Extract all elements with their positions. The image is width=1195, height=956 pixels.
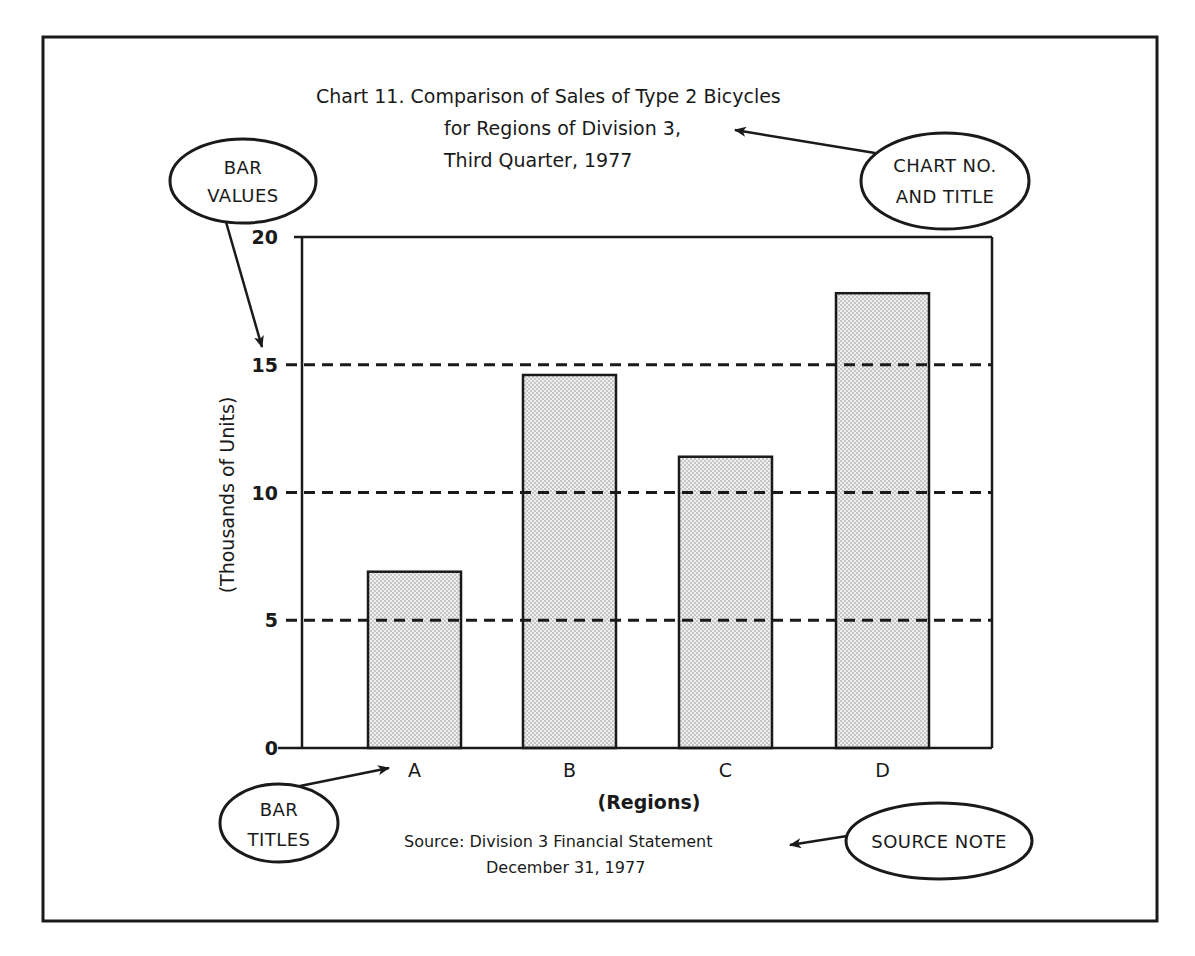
callout-bar-values: BAR VALUES [170,139,316,347]
arrow-icon [735,130,875,153]
callout-text: CHART NO. [893,155,996,176]
y-tick-labels: 05101520 [252,226,278,759]
chart-title-line-2: for Regions of Division 3, [444,117,681,139]
bar-a [368,572,461,748]
bar-c [679,457,772,748]
callout-text: BAR [224,157,263,178]
callout-text: AND TITLE [896,186,995,207]
source-note-text: Source: Division 3 Financial Statement D… [404,832,713,877]
y-tick-label: 0 [265,737,278,759]
callout-text: BAR [260,799,299,820]
bar-series [368,293,929,748]
bar-d [836,293,929,748]
bar-b [523,375,616,748]
y-axis-label: (Thousands of Units) [216,397,238,594]
callout-source-note: SOURCE NOTE [790,803,1032,879]
source-line-1: Source: Division 3 Financial Statement [404,832,713,851]
y-tick-label: 20 [252,226,278,248]
chart-title: Chart 11. Comparison of Sales of Type 2 … [316,85,781,171]
arrow-icon [790,836,847,845]
y-tick-label: 5 [265,609,278,631]
chart-figure: Chart 11. Comparison of Sales of Type 2 … [0,0,1195,956]
callout-ellipse [220,784,338,862]
callout-text: VALUES [207,185,279,206]
category-labels: ABCD [408,759,890,781]
x-axis-label: (Regions) [598,791,701,813]
source-line-2: December 31, 1977 [486,858,645,877]
callout-ellipse [861,133,1029,229]
callout-text: SOURCE NOTE [871,831,1007,852]
arrow-icon [300,768,389,786]
category-label: B [563,759,576,781]
category-label: D [875,759,890,781]
y-tick-label: 10 [252,482,278,504]
callout-bar-titles: BAR TITLES [220,768,389,862]
callout-text: TITLES [246,829,310,850]
callout-ellipse [170,139,316,223]
category-label: A [408,759,421,781]
callout-chart-no-title: CHART NO. AND TITLE [735,130,1029,229]
y-tick-label: 15 [252,354,278,376]
category-label: C [719,759,732,781]
chart-title-line-1: Chart 11. Comparison of Sales of Type 2 … [316,85,781,107]
chart-title-line-3: Third Quarter, 1977 [443,149,632,171]
